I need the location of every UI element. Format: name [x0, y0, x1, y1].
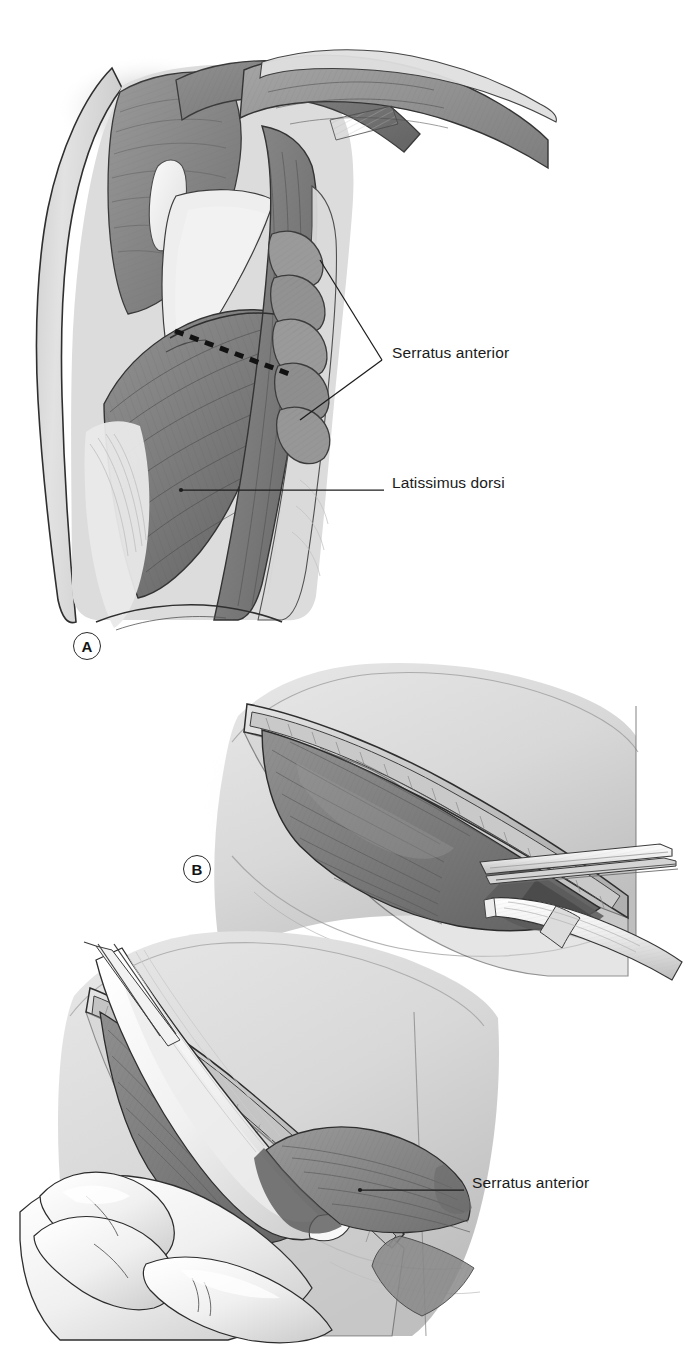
illustration-artwork: [0, 0, 693, 1349]
label-serratus-anterior-a: Serratus anterior: [392, 344, 509, 362]
label-latissimus-dorsi-a: Latissimus dorsi: [392, 474, 505, 492]
leader-dot-latissimus: [179, 488, 183, 492]
panel-c-artwork: [20, 931, 499, 1343]
label-serratus-anterior-c: Serratus anterior: [472, 1174, 589, 1192]
panel-letter-a: A: [73, 632, 101, 660]
leader-dot-serratus-c: [358, 1188, 362, 1192]
surgical-illustration-figure: Serratus anterior Latissimus dorsi Serra…: [0, 0, 693, 1349]
panel-a-artwork: [36, 50, 556, 630]
panel-letter-b: B: [183, 855, 211, 883]
